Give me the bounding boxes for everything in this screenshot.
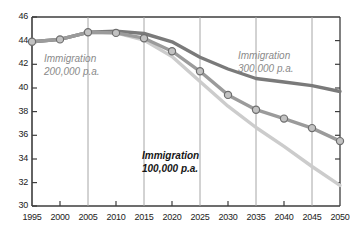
right-axis-ticks (335, 41, 340, 183)
annotation-300k-line2: 300,000 p.a. (238, 63, 294, 76)
x-tick-label-2025: 2025 (187, 212, 213, 222)
y-tick-label-30: 30 (6, 200, 28, 210)
annotation-100k-line1: Immigration (142, 150, 199, 163)
annotation-300k-line1: Immigration (238, 50, 294, 63)
series-markers-200k (28, 29, 343, 145)
x-tick-label-2010: 2010 (103, 212, 129, 222)
y-tick-label-42: 42 (6, 58, 28, 68)
y-tick-label-40: 40 (6, 82, 28, 92)
chart-plot-area (0, 0, 352, 239)
annotation-200k-line2: 200,000 p.a. (44, 66, 100, 79)
x-tick-label-2040: 2040 (271, 212, 297, 222)
x-tick-label-2050: 2050 (327, 212, 352, 222)
x-tick-label-2000: 2000 (47, 212, 73, 222)
y-tick-label-32: 32 (6, 177, 28, 187)
annotation-immigration-200k: Immigration 200,000 p.a. (44, 53, 100, 78)
y-tick-label-34: 34 (6, 153, 28, 163)
annotation-200k-line1: Immigration (44, 53, 100, 66)
x-tick-label-2035: 2035 (243, 212, 269, 222)
chart-container: 46 44 42 40 38 36 34 32 30 1995 2000 200… (0, 0, 352, 239)
y-tick-label-44: 44 (6, 35, 28, 45)
annotation-immigration-300k: Immigration 300,000 p.a. (238, 50, 294, 75)
annotation-100k-line2: 100,000 p.a. (142, 163, 199, 176)
x-tick-label-2045: 2045 (299, 212, 325, 222)
y-tick-label-46: 46 (6, 11, 28, 21)
annotation-immigration-100k: Immigration 100,000 p.a. (142, 150, 199, 175)
y-tick-label-38: 38 (6, 106, 28, 116)
vertical-gridlines (88, 17, 312, 206)
x-tick-label-2005: 2005 (75, 212, 101, 222)
x-tick-label-1995: 1995 (19, 212, 45, 222)
y-tick-label-36: 36 (6, 129, 28, 139)
x-tick-label-2015: 2015 (131, 212, 157, 222)
x-tick-label-2020: 2020 (159, 212, 185, 222)
plot-frame (32, 17, 340, 206)
x-tick-label-2030: 2030 (215, 212, 241, 222)
